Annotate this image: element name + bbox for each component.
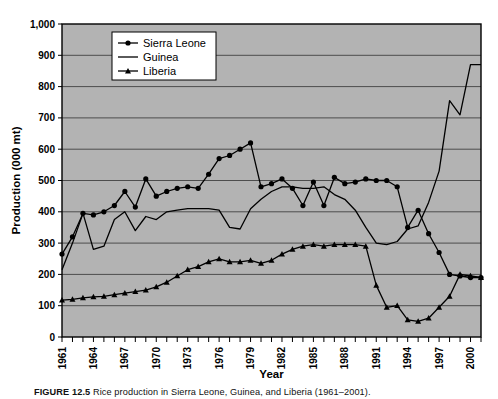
marker-sierra-leone-1975: [206, 172, 211, 177]
x-tick-label-1994: 1994: [402, 347, 413, 370]
y-tick-label-800: 800: [38, 81, 55, 92]
legend-marker-sierra-leone: [125, 40, 130, 45]
x-tick-label-1967: 1967: [119, 347, 130, 370]
marker-sierra-leone-1981: [269, 181, 274, 186]
marker-sierra-leone-1970: [154, 194, 159, 199]
marker-sierra-leone-1995: [416, 208, 421, 213]
x-tick-label-2000: 2000: [465, 347, 476, 370]
marker-sierra-leone-1972: [175, 186, 180, 191]
marker-sierra-leone-1998: [447, 272, 452, 277]
marker-sierra-leone-1966: [112, 203, 117, 208]
y-tick-label-900: 900: [38, 50, 55, 61]
marker-sierra-leone-1991: [374, 178, 379, 183]
x-tick-label-1997: 1997: [434, 347, 445, 370]
marker-sierra-leone-1976: [217, 156, 222, 161]
y-axis-title: Production (000 mt): [10, 126, 22, 234]
rice-production-line-chart: 01002003004005006007008009001,0001961196…: [0, 0, 498, 399]
marker-sierra-leone-1989: [353, 179, 358, 184]
x-tick-label-1988: 1988: [339, 347, 350, 370]
marker-sierra-leone-1971: [164, 189, 169, 194]
legend-label-guinea: Guinea: [143, 51, 179, 63]
marker-sierra-leone-1982: [279, 176, 284, 181]
marker-sierra-leone-1967: [122, 189, 127, 194]
marker-sierra-leone-1997: [437, 250, 442, 255]
y-tick-label-600: 600: [38, 144, 55, 155]
figure-container: 01002003004005006007008009001,0001961196…: [0, 0, 498, 399]
x-tick-label-1985: 1985: [308, 347, 319, 370]
figure-caption: FIGURE 12.5 Rice production in Sierra Le…: [34, 387, 484, 399]
marker-sierra-leone-1985: [311, 179, 316, 184]
y-tick-label-1,000: 1,000: [30, 19, 55, 30]
y-tick-label-500: 500: [38, 175, 55, 186]
marker-sierra-leone-1986: [321, 203, 326, 208]
x-tick-label-1979: 1979: [245, 347, 256, 370]
x-tick-label-1973: 1973: [182, 347, 193, 370]
y-tick-label-400: 400: [38, 206, 55, 217]
marker-sierra-leone-1988: [342, 181, 347, 186]
y-tick-label-0: 0: [49, 332, 55, 343]
marker-sierra-leone-1996: [426, 231, 431, 236]
marker-sierra-leone-1974: [196, 186, 201, 191]
marker-sierra-leone-1973: [185, 184, 190, 189]
marker-sierra-leone-1993: [395, 184, 400, 189]
y-tick-label-700: 700: [38, 112, 55, 123]
y-tick-label-300: 300: [38, 238, 55, 249]
marker-sierra-leone-1979: [248, 140, 253, 145]
caption-label: FIGURE 12.5: [34, 387, 90, 397]
x-tick-label-1961: 1961: [57, 347, 68, 370]
caption-text: Rice production in Sierra Leone, Guinea,…: [93, 387, 371, 397]
legend-label-sierra-leone: Sierra Leone: [143, 37, 206, 49]
marker-sierra-leone-1977: [227, 153, 232, 158]
marker-sierra-leone-1978: [237, 147, 242, 152]
y-tick-label-200: 200: [38, 269, 55, 280]
marker-sierra-leone-1980: [258, 184, 263, 189]
x-tick-label-1970: 1970: [151, 347, 162, 370]
marker-sierra-leone-1984: [300, 203, 305, 208]
x-tick-label-1991: 1991: [371, 347, 382, 370]
legend-label-liberia: Liberia: [143, 65, 177, 77]
marker-sierra-leone-1968: [133, 205, 138, 210]
marker-sierra-leone-1992: [384, 178, 389, 183]
marker-sierra-leone-1964: [91, 212, 96, 217]
marker-sierra-leone-1969: [143, 176, 148, 181]
marker-sierra-leone-1965: [101, 209, 106, 214]
x-tick-label-1982: 1982: [276, 347, 287, 370]
x-tick-label-1964: 1964: [88, 347, 99, 370]
x-axis-title: Year: [259, 368, 284, 380]
x-tick-label-1976: 1976: [214, 347, 225, 370]
marker-sierra-leone-1987: [332, 175, 337, 180]
y-tick-label-100: 100: [38, 300, 55, 311]
marker-sierra-leone-1990: [363, 176, 368, 181]
